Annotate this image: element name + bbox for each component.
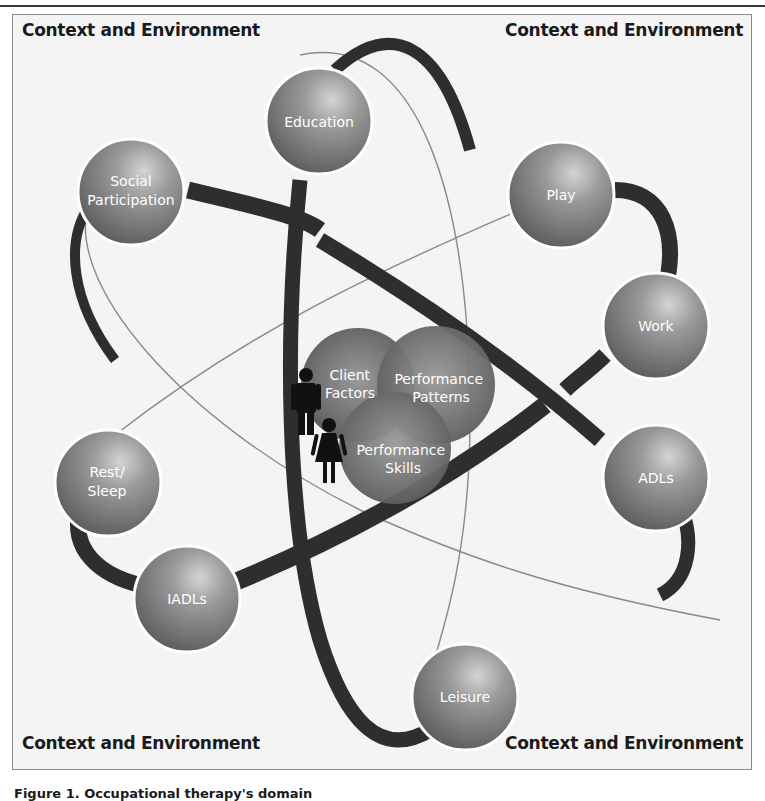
core-cluster: Client Factors Performance Patterns Perf… <box>301 326 495 504</box>
adls-label: ADLs <box>638 470 673 486</box>
sphere-leisure: Leisure <box>412 644 518 750</box>
work-label: Work <box>638 318 674 334</box>
sphere-adls: ADLs <box>603 425 709 531</box>
education-label: Education <box>284 114 354 130</box>
context-label-bottom-left: Context and Environment <box>22 733 260 753</box>
social-label-line1: Social <box>110 173 152 189</box>
play-label: Play <box>546 187 575 203</box>
context-label-bottom-right: Context and Environment <box>505 733 743 753</box>
sphere-iadls: IADLs <box>134 546 240 652</box>
iadls-label: IADLs <box>167 591 207 607</box>
social-label-line2: Participation <box>87 192 174 208</box>
sphere-rest-sleep: Rest/ Sleep <box>55 430 161 536</box>
rest-label-line2: Sleep <box>88 483 127 499</box>
rest-label-line1: Rest/ <box>89 464 124 480</box>
sphere-social-participation: Social Participation <box>78 139 184 245</box>
leisure-label: Leisure <box>440 689 490 705</box>
sphere-play: Play <box>508 142 614 248</box>
sphere-work: Work <box>603 273 709 379</box>
context-label-top-right: Context and Environment <box>505 20 743 40</box>
context-label-top-left: Context and Environment <box>22 20 260 40</box>
figure-caption: Figure 1. Occupational therapy's domain <box>14 786 312 801</box>
sphere-education: Education <box>266 68 372 174</box>
